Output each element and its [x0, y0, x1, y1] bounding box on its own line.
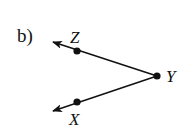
- angle-diagram: b) Z Y X: [0, 0, 189, 138]
- ray-yx: [53, 76, 157, 111]
- label-x: X: [68, 110, 80, 129]
- point-z: [73, 47, 80, 54]
- label-z: Z: [70, 28, 80, 47]
- label-y: Y: [166, 67, 177, 86]
- ray-yz: [53, 42, 157, 76]
- part-label: b): [17, 25, 33, 47]
- point-y-vertex: [153, 72, 160, 79]
- point-x: [73, 98, 80, 105]
